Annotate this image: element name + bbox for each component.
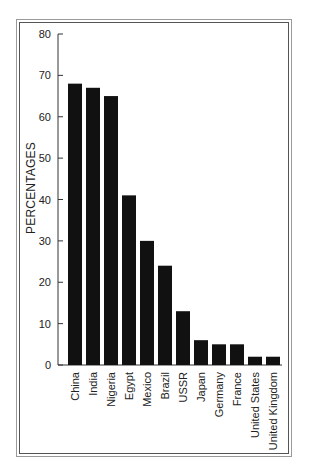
y-tick-label: 0 bbox=[45, 359, 51, 371]
bar-brazil bbox=[158, 266, 172, 365]
bar-france bbox=[230, 344, 244, 365]
bar-japan bbox=[194, 340, 208, 365]
bar-ussr bbox=[176, 311, 190, 365]
bars bbox=[68, 84, 280, 365]
bar-nigeria bbox=[104, 96, 118, 365]
bar-china bbox=[68, 84, 82, 365]
y-tick-label: 60 bbox=[39, 111, 51, 123]
y-tick-label: 40 bbox=[39, 194, 51, 206]
y-tick-label: 70 bbox=[39, 69, 51, 81]
x-tick-label: United Kingdom bbox=[267, 372, 279, 450]
x-tick-label: United States bbox=[249, 372, 261, 439]
bar-egypt bbox=[122, 195, 136, 365]
x-tick-label: Germany bbox=[213, 372, 225, 418]
bar-mexico bbox=[140, 241, 154, 365]
x-tick-label: Brazil bbox=[159, 372, 171, 400]
x-tick-label: Nigeria bbox=[105, 371, 117, 407]
x-axis-labels: ChinaIndiaNigeriaEgyptMexicoBrazilUSSRJa… bbox=[69, 371, 279, 450]
bar-united-states bbox=[248, 357, 262, 365]
x-tick-label: Japan bbox=[195, 372, 207, 402]
bar-united-kingdom bbox=[266, 357, 280, 365]
y-tick-label: 20 bbox=[39, 276, 51, 288]
bar-germany bbox=[212, 344, 226, 365]
x-tick-label: Egypt bbox=[123, 372, 135, 400]
bar-india bbox=[86, 88, 100, 365]
y-axis-label: PERCENTAGES bbox=[24, 142, 38, 234]
bar-chart: 01020304050607080 ChinaIndiaNigeriaEgypt… bbox=[0, 0, 309, 471]
x-tick-label: France bbox=[231, 372, 243, 406]
x-tick-label: India bbox=[87, 371, 99, 396]
y-tick-label: 10 bbox=[39, 318, 51, 330]
y-tick-label: 30 bbox=[39, 235, 51, 247]
y-tick-label: 50 bbox=[39, 152, 51, 164]
y-tick-label: 80 bbox=[39, 28, 51, 40]
x-tick-label: China bbox=[69, 371, 81, 401]
x-tick-label: USSR bbox=[177, 372, 189, 403]
x-tick-label: Mexico bbox=[141, 372, 153, 407]
